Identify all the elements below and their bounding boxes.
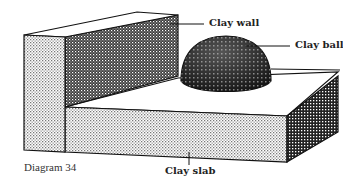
- label-clay-ball: Clay ball: [295, 39, 343, 50]
- diagram-caption: Diagram 34: [24, 161, 76, 173]
- label-clay-slab: Clay slab: [165, 165, 215, 176]
- wall-end-face: [24, 35, 65, 152]
- clay-structure-illustration: [0, 0, 343, 183]
- ball-base-line: [271, 69, 340, 70]
- slab-front-face: [65, 107, 287, 162]
- label-clay-wall: Clay wall: [209, 17, 259, 28]
- diagram-34: Clay wall Clay ball Clay slab Diagram 34: [0, 0, 343, 183]
